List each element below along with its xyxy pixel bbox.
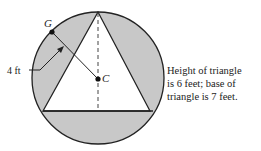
caption-line: Height of triangle	[167, 64, 242, 77]
point-g	[49, 29, 54, 34]
caption-line: triangle is 7 feet.	[167, 90, 242, 103]
caption: Height of triangle is 6 feet; base of tr…	[167, 64, 242, 103]
label-radius: 4 ft	[7, 65, 21, 76]
label-c: C	[102, 72, 110, 84]
caption-line: is 6 feet; base of	[167, 77, 242, 90]
label-g: G	[44, 17, 52, 29]
point-c	[95, 76, 100, 81]
